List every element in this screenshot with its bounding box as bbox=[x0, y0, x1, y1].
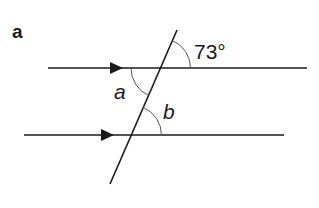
angle-b-label: b bbox=[163, 100, 175, 123]
angle-a-label: a bbox=[114, 80, 126, 103]
angle-b-arc bbox=[143, 108, 161, 136]
angle-a-arc bbox=[131, 68, 149, 96]
angle-73-label: 73° bbox=[194, 40, 226, 63]
angle-73-arc bbox=[173, 41, 191, 69]
top-parallel-arrow-icon bbox=[110, 62, 123, 74]
bottom-parallel-arrow-icon bbox=[101, 129, 114, 141]
panel-label: a bbox=[12, 21, 23, 42]
parallel-lines-diagram: a 73° a b bbox=[0, 0, 319, 208]
